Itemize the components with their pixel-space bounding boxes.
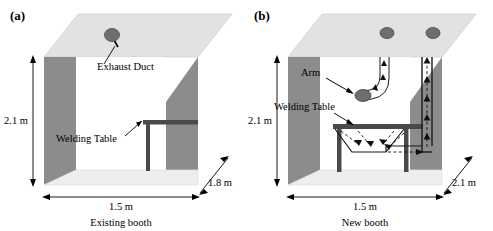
welding-table-label: Welding Table bbox=[274, 101, 335, 112]
right-wall bbox=[166, 57, 198, 170]
height-dimension-label: 2.1 m bbox=[248, 115, 272, 126]
height-dimension bbox=[274, 55, 280, 187]
height-dimension bbox=[30, 55, 36, 187]
depth-dimension bbox=[443, 156, 473, 195]
exhaust-duct-label: Exhaust Duct bbox=[97, 61, 154, 72]
width-dimension-label: 1.5 m bbox=[109, 201, 133, 212]
panel-b-drawing: Arm Welding Table bbox=[246, 0, 493, 231]
width-dimension bbox=[286, 194, 444, 200]
depth-dimension-label: 1.8 m bbox=[208, 177, 232, 188]
arm-label: Arm bbox=[301, 67, 320, 78]
figure-root: Exhaust Duct Welding Table 2.1 m bbox=[0, 0, 493, 231]
panel-a-drawing: Exhaust Duct Welding Table 2.1 m bbox=[0, 0, 246, 231]
back-wall bbox=[76, 57, 166, 170]
ceiling-exhaust-duct-right bbox=[426, 28, 440, 39]
panel-new-booth: Arm Welding Table bbox=[246, 0, 493, 231]
width-dimension bbox=[42, 194, 200, 200]
panel-caption: New booth bbox=[342, 217, 389, 228]
back-wall bbox=[320, 57, 410, 170]
depth-dimension bbox=[199, 156, 229, 195]
panel-tag: (a) bbox=[10, 8, 25, 23]
panel-tag: (b) bbox=[254, 8, 270, 23]
height-dimension-label: 2.1 m bbox=[4, 115, 28, 126]
panel-existing-booth: Exhaust Duct Welding Table 2.1 m bbox=[0, 0, 246, 231]
width-dimension-label: 1.5 m bbox=[353, 201, 377, 212]
ceiling bbox=[44, 14, 232, 57]
right-wall bbox=[410, 57, 442, 170]
welding-table-label: Welding Table bbox=[56, 133, 117, 144]
left-wall bbox=[44, 57, 76, 185]
depth-dimension-label: 2.1 m bbox=[452, 177, 476, 188]
panel-caption: Existing booth bbox=[90, 217, 152, 228]
ceiling-exhaust-duct-left bbox=[380, 28, 394, 39]
